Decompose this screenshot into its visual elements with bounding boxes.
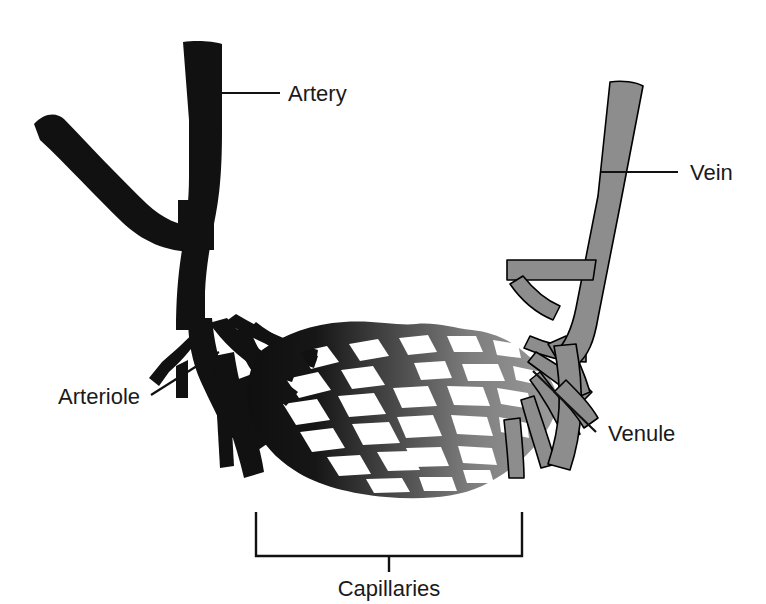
- label-venule: Venule: [608, 421, 675, 446]
- artery-branch-upper-left: [34, 115, 195, 252]
- vein-trunk: [556, 81, 643, 366]
- artery-junction: [178, 200, 214, 250]
- circulation-diagram: Artery Vein Arteriole Venule Capillaries: [0, 0, 766, 604]
- diagram-canvas: Artery Vein Arteriole Venule Capillaries: [0, 0, 766, 604]
- capillaries-bracket: [256, 512, 522, 556]
- label-arteriole: Arteriole: [58, 384, 140, 409]
- artery-trunk: [176, 41, 222, 330]
- label-artery: Artery: [288, 81, 347, 106]
- artery-vessel: [34, 41, 222, 330]
- vein-tributary-diagonal: [510, 276, 560, 320]
- label-vein: Vein: [690, 160, 733, 185]
- label-capillaries: Capillaries: [338, 576, 441, 601]
